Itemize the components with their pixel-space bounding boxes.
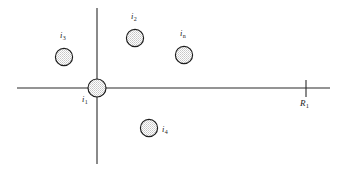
node-label-in: in xyxy=(180,29,186,38)
node-circle-i4 xyxy=(140,119,157,136)
node-label-i1: i1 xyxy=(82,95,88,104)
node-label-i2: i2 xyxy=(131,12,137,21)
node-label-i4: i4 xyxy=(162,125,168,134)
figure-canvas xyxy=(0,0,340,174)
node-circle-i2 xyxy=(126,29,143,46)
node-circle-in xyxy=(175,46,192,63)
coordinate-plane-figure: i1 i2 i3 in i4 R1 xyxy=(0,0,340,174)
axis-label-R1: R1 xyxy=(300,99,309,108)
node-circle-i1 xyxy=(88,79,106,97)
node-circle-i3 xyxy=(55,48,72,65)
node-label-i3: i3 xyxy=(60,31,66,40)
